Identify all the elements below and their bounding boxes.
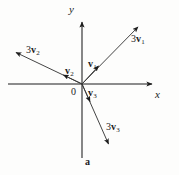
vector-figure: y x 0 v1 3v1 v2 3v2 v3 3v3 a	[0, 0, 179, 175]
vector-label-v1: v1	[88, 59, 97, 71]
y-axis-label: y	[69, 4, 74, 15]
x-axis-label: x	[155, 89, 160, 100]
vector-label-v2: v2	[65, 66, 74, 78]
vector-label-v2-subscript: 2	[70, 70, 74, 78]
vector-label-3v3-subscript: 3	[116, 126, 120, 134]
vector-label-3v1-subscript: 1	[141, 38, 145, 46]
panel-label: a	[85, 157, 90, 167]
vector-label-3v3: 3v3	[106, 122, 120, 134]
vector-label-3v2: 3v2	[26, 45, 40, 57]
vector-label-v1-subscript: 1	[93, 63, 97, 71]
vector-label-v3-subscript: 3	[93, 92, 97, 100]
vector-label-3v1: 3v1	[131, 34, 145, 46]
vector-label-v3: v3	[88, 88, 97, 100]
vector-label-3v2-subscript: 2	[36, 49, 40, 57]
origin-label: 0	[71, 87, 76, 97]
